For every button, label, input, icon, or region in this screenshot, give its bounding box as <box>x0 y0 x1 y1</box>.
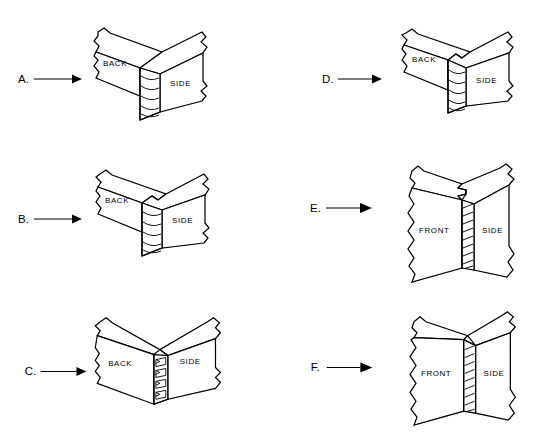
endgrain-strip-f <box>464 340 476 413</box>
board-label-side-b: SIDE <box>172 216 193 225</box>
endgrain-strip-b <box>142 203 162 256</box>
endgrain-strip-e <box>462 200 474 270</box>
arrow-head-a <box>72 75 82 84</box>
board-label-back-a: BACK <box>103 59 127 68</box>
board-label-side-d: SIDE <box>476 76 497 85</box>
panel-letter-b: B. <box>18 213 29 225</box>
arrow-head-d <box>372 75 382 84</box>
front-board-top-f <box>412 317 468 340</box>
board-label-side-e: SIDE <box>482 226 503 235</box>
board-label-side-a: SIDE <box>170 79 191 88</box>
panel-letter-c: C. <box>25 365 36 377</box>
joint-panel-d: D. BACK SIDE <box>276 0 552 146</box>
arrow-head-f <box>360 363 372 373</box>
arrow-head-e <box>360 203 372 213</box>
arrow-head-c <box>76 367 86 376</box>
figure-sheet: A. BACK SID <box>0 0 552 439</box>
arrow-head-b <box>72 215 82 224</box>
board-label-side-f: SIDE <box>484 369 505 378</box>
callout-e: E. <box>310 202 372 214</box>
board-label-front-e: FRONT <box>419 226 450 235</box>
callout-a: A. <box>18 73 82 85</box>
board-label-back-b: BACK <box>105 196 129 205</box>
panel-letter-f: F. <box>311 361 320 373</box>
joint-panel-a: A. BACK SID <box>0 0 276 146</box>
callout-f: F. <box>311 361 373 373</box>
front-board-face-e <box>408 188 462 282</box>
panel-letter-d: D. <box>322 73 334 85</box>
joint-panel-c: C. B <box>0 292 276 438</box>
endgrain-strip-a <box>140 68 160 120</box>
joint-panel-b: B. BACK SIDE <box>0 146 276 292</box>
joint-panel-f: F. FRONT SIDE <box>276 292 552 438</box>
board-label-back-c: BACK <box>108 359 132 368</box>
panel-letter-a: A. <box>18 73 29 85</box>
joint-panel-e: E. <box>276 146 552 292</box>
board-label-front-f: FRONT <box>421 369 451 378</box>
board-label-side-c: SIDE <box>180 358 201 367</box>
callout-c: C. <box>25 365 87 377</box>
front-board-face-f <box>410 338 464 425</box>
panel-letter-e: E. <box>310 202 321 214</box>
endgrain-strip-d <box>448 60 466 113</box>
callout-d: D. <box>322 73 382 85</box>
callout-b: B. <box>18 213 82 225</box>
board-label-back-d: BACK <box>412 55 436 64</box>
